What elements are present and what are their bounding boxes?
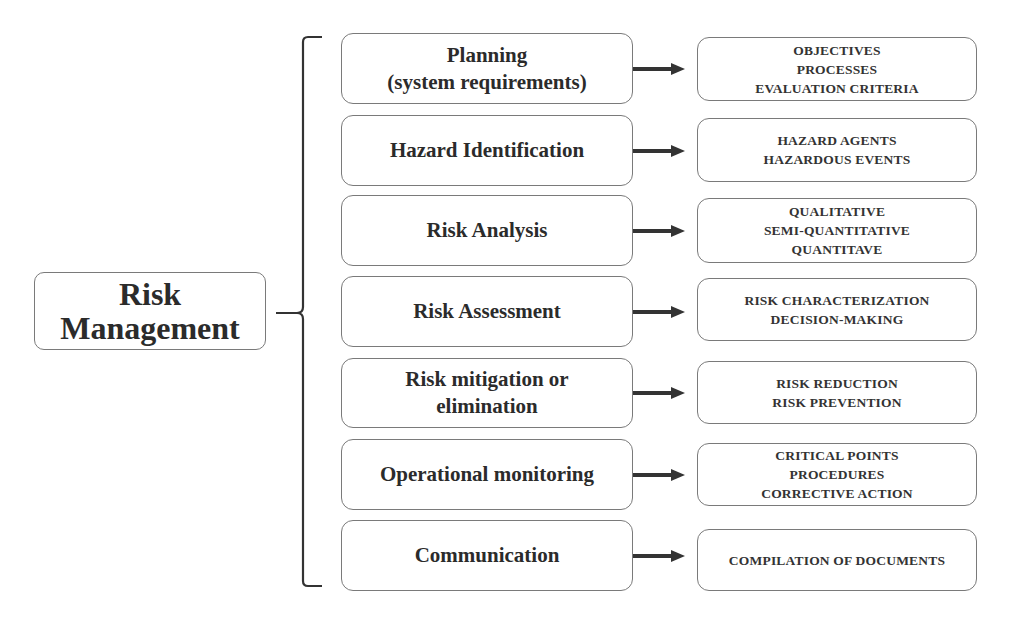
arrow-right-icon — [633, 224, 685, 238]
detail-box: COMPILATION OF DOCUMENTS — [697, 529, 977, 591]
detail-box: QUALITATIVESEMI-QUANTITATIVEQUANTITAVE — [697, 198, 977, 263]
arrow-right-icon — [633, 62, 685, 76]
arrow-right-icon — [633, 305, 685, 319]
arrow-right-icon — [633, 386, 685, 400]
detail-item: RISK PREVENTION — [772, 393, 901, 412]
step-label: Risk mitigation or — [405, 366, 568, 393]
detail-item: HAZARD AGENTS — [777, 131, 896, 150]
risk-management-root-box: Risk Management — [34, 272, 266, 350]
step-box: Risk Assessment — [341, 276, 633, 347]
detail-item: QUANTITAVE — [792, 240, 883, 259]
detail-item: HAZARDOUS EVENTS — [764, 150, 911, 169]
detail-box: RISK CHARACTERIZATIONDECISION-MAKING — [697, 278, 977, 341]
step-label: Operational monitoring — [380, 461, 594, 488]
detail-box: OBJECTIVESPROCESSESEVALUATION CRITERIA — [697, 37, 977, 101]
step-label: Risk Assessment — [413, 298, 561, 325]
arrow-right-icon — [633, 144, 685, 158]
detail-item: PROCEDURES — [789, 465, 884, 484]
step-box: Planning(system requirements) — [341, 33, 633, 104]
detail-item: PROCESSES — [797, 60, 878, 79]
step-box: Communication — [341, 520, 633, 591]
detail-item: SEMI-QUANTITATIVE — [764, 221, 910, 240]
step-box: Risk Analysis — [341, 195, 633, 266]
detail-item: RISK CHARACTERIZATION — [744, 291, 929, 310]
step-label: Planning — [447, 42, 528, 69]
detail-item: QUALITATIVE — [789, 202, 885, 221]
detail-box: CRITICAL POINTSPROCEDURESCORRECTIVE ACTI… — [697, 443, 977, 506]
step-label: elimination — [436, 393, 538, 420]
detail-box: RISK REDUCTIONRISK PREVENTION — [697, 361, 977, 424]
step-label: Hazard Identification — [390, 137, 584, 164]
step-box: Operational monitoring — [341, 439, 633, 510]
step-label: (system requirements) — [387, 69, 586, 96]
detail-item: OBJECTIVES — [793, 41, 881, 60]
step-box: Risk mitigation orelimination — [341, 358, 633, 428]
detail-box: HAZARD AGENTSHAZARDOUS EVENTS — [697, 118, 977, 182]
detail-item: EVALUATION CRITERIA — [755, 79, 918, 98]
root-title-line-1: Risk — [119, 277, 181, 311]
step-label: Communication — [415, 542, 560, 569]
detail-item: COMPILATION OF DOCUMENTS — [729, 551, 945, 570]
detail-item: DECISION-MAKING — [771, 310, 904, 329]
detail-item: CORRECTIVE ACTION — [761, 484, 913, 503]
step-label: Risk Analysis — [427, 217, 548, 244]
detail-item: RISK REDUCTION — [776, 374, 898, 393]
arrow-right-icon — [633, 549, 685, 563]
arrow-right-icon — [633, 468, 685, 482]
root-title-line-2: Management — [60, 311, 240, 345]
detail-item: CRITICAL POINTS — [775, 446, 898, 465]
step-box: Hazard Identification — [341, 115, 633, 186]
